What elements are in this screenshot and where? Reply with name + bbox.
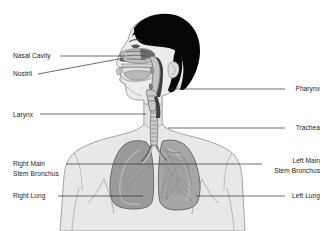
hilum-shadow — [162, 156, 190, 196]
label-left-main-stem-bronchus-line1: Left Main — [292, 157, 320, 164]
label-nostril: Nostril — [13, 70, 33, 77]
label-trachea: Trachea — [296, 124, 321, 131]
label-nasal-cavity: Nasal Cavity — [13, 52, 51, 60]
hard-palate — [122, 64, 154, 67]
label-right-main-stem-bronchus-line2: Stem Bronchus — [13, 170, 59, 177]
label-left-lung: Left Lung — [292, 192, 320, 200]
label-larynx: Larynx — [13, 111, 34, 119]
labels-right-group: Pharynx Trachea Left Main Stem Bronchus … — [274, 85, 320, 200]
diagram-canvas: Nasal Cavity Nostril Larynx Right Main S… — [0, 0, 333, 231]
label-left-main-stem-bronchus-line2: Stem Bronchus — [274, 167, 320, 174]
labels-left-group: Nasal Cavity Nostril Larynx Right Main S… — [13, 52, 59, 200]
label-pharynx: Pharynx — [295, 85, 320, 93]
label-right-lung: Right Lung — [13, 192, 46, 200]
head-group — [116, 14, 200, 118]
leader-line-nostril — [38, 58, 124, 74]
respiratory-system-diagram: Nasal Cavity Nostril Larynx Right Main S… — [0, 0, 333, 231]
label-right-main-stem-bronchus-line1: Right Main — [13, 160, 45, 168]
